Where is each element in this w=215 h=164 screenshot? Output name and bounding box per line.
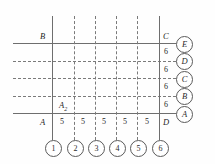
level-bubble-A-label: A (182, 110, 187, 119)
node-label-D: D (163, 118, 169, 127)
column-line-1 (52, 16, 53, 140)
level-bubble-E[interactable]: E (176, 36, 193, 53)
column-bubble-1[interactable]: 1 (45, 140, 62, 157)
column-bubble-6[interactable]: 6 (152, 140, 169, 157)
column-line-2 (74, 16, 75, 140)
column-bubble-3-label: 3 (95, 145, 99, 153)
level-bubble-D[interactable]: D (176, 53, 193, 70)
column-bubble-4[interactable]: 4 (109, 140, 126, 157)
level-bubble-E-label: E (182, 40, 187, 49)
column-line-6 (159, 16, 160, 140)
node-label-A: A (40, 118, 45, 127)
storey-dimension-B-A: 6 (164, 101, 168, 109)
level-bubble-D-label: D (181, 57, 187, 66)
level-bubble-C-label: C (182, 75, 188, 84)
node-label-B: B (40, 32, 45, 41)
node-label-C: C (163, 32, 169, 41)
storey-dimension-C-B: 6 (164, 83, 168, 91)
column-bubble-2-label: 2 (74, 145, 78, 153)
column-bubble-1-label: 1 (52, 145, 56, 153)
level-bubble-B-label: B (182, 92, 187, 101)
bay-dimension-2-3: 5 (81, 118, 85, 126)
storey-dimension-E-D: 6 (164, 48, 168, 56)
bay-dimension-1-2: 5 (60, 118, 64, 126)
level-bubble-A[interactable]: A (176, 106, 193, 123)
column-bubble-5[interactable]: 5 (130, 140, 147, 157)
column-bubble-5-label: 5 (137, 145, 141, 153)
bay-dimension-3-4: 5 (102, 118, 106, 126)
level-bubble-C[interactable]: C (176, 71, 193, 88)
column-bubble-3[interactable]: 3 (88, 140, 105, 157)
bay-dimension-4-5: 5 (123, 118, 127, 126)
node-label-A2: A2 (59, 101, 67, 112)
column-bubble-2[interactable]: 2 (67, 140, 84, 157)
column-line-3 (95, 16, 96, 140)
level-bubble-B[interactable]: B (176, 88, 193, 105)
column-line-5 (137, 16, 138, 140)
column-line-4 (116, 16, 117, 140)
storey-dimension-D-C: 6 (164, 66, 168, 74)
node-label-A2-subscript: 2 (64, 106, 67, 112)
column-bubble-6-label: 6 (159, 145, 163, 153)
column-bubble-4-label: 4 (116, 145, 120, 153)
bay-dimension-5-6: 5 (145, 118, 149, 126)
structural-grid-figure: B C A D A2 5 5 5 5 5 6 6 6 6 E D C B A 1… (0, 0, 215, 164)
